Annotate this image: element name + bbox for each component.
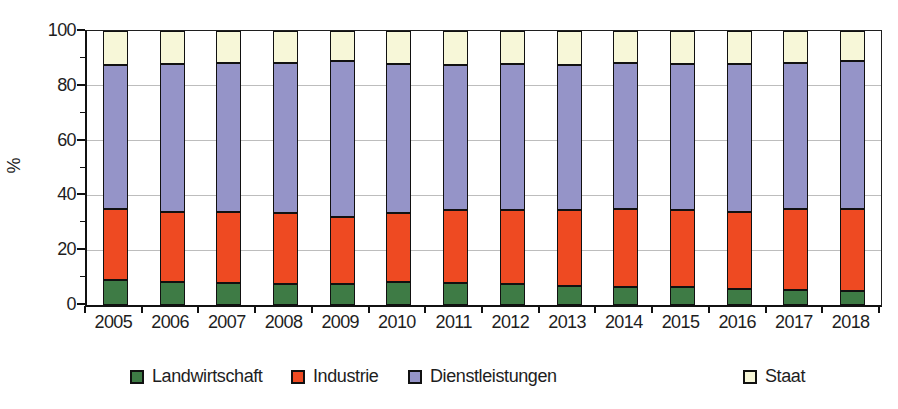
bar-2015-segment-industrie [670,210,695,287]
bar-2012-segment-landwirtschaft [500,284,525,305]
bar-2005-segment-landwirtschaft [103,280,128,305]
x-tick-label-2017: 2017 [775,312,813,333]
bar-2009-segment-industrie [330,217,355,284]
legend-swatch-industrie [291,370,305,384]
x-tick-boundary-0 [84,306,86,313]
y-tick-80 [77,84,85,86]
bar-2014-segment-dienstleistungen [613,63,638,210]
bar-2008-segment-landwirtschaft [273,284,298,305]
x-tick-label-2016: 2016 [718,312,756,333]
y-axis-title: % [4,157,25,173]
x-tick-label-2007: 2007 [208,312,246,333]
bar-2009-segment-landwirtschaft [330,284,355,305]
x-tick-boundary-12 [765,306,767,313]
x-tick-label-2009: 2009 [321,312,359,333]
bar-2016-segment-landwirtschaft [727,289,752,305]
y-tick-60 [77,139,85,141]
bar-2014-segment-landwirtschaft [613,287,638,305]
x-tick-label-2005: 2005 [95,312,133,333]
bar-2011-segment-staat [443,31,468,65]
x-tick-boundary-5 [368,306,370,313]
x-tick-label-2006: 2006 [151,312,189,333]
y-minor-tick-50 [80,167,85,168]
bar-2014-segment-staat [613,31,638,63]
bar-2010-segment-industrie [386,213,411,282]
x-tick-label-2010: 2010 [378,312,416,333]
bar-2006-segment-industrie [160,212,185,282]
legend-swatch-staat [743,370,757,384]
y-tick-label-80: 80 [34,75,76,96]
bar-2007-segment-industrie [216,212,241,283]
bar-2017-segment-industrie [783,209,808,290]
bar-2007-segment-dienstleistungen [216,63,241,212]
x-tick-label-2013: 2013 [548,312,586,333]
x-tick-boundary-4 [311,306,313,313]
bar-2016-segment-dienstleistungen [727,64,752,212]
gridline-60 [87,140,881,141]
bar-2006-segment-staat [160,31,185,64]
y-minor-tick-10 [80,276,85,277]
y-tick-100 [77,29,85,31]
bar-2016-segment-industrie [727,212,752,289]
bar-2018-segment-landwirtschaft [840,291,865,305]
bar-2011-segment-dienstleistungen [443,65,468,210]
stacked-bar-chart-figure: % LandwirtschaftIndustrieDienstleistunge… [0,0,898,409]
x-tick-boundary-11 [708,306,710,313]
bar-2017-segment-staat [783,31,808,63]
x-tick-label-2014: 2014 [605,312,643,333]
legend-label-industrie: Industrie [313,366,378,387]
bar-2005-segment-staat [103,31,128,65]
x-tick-boundary-2 [197,306,199,313]
x-tick-boundary-7 [481,306,483,313]
bar-2013-segment-landwirtschaft [557,286,582,305]
y-tick-label-20: 20 [34,239,76,260]
legend-swatch-dienstleistungen [408,370,422,384]
x-tick-boundary-14 [878,306,880,313]
bar-2018-segment-staat [840,31,865,61]
y-tick-label-0: 0 [34,294,76,315]
bar-2008-segment-dienstleistungen [273,63,298,214]
y-tick-label-100: 100 [34,20,76,41]
legend-label-dienstleistungen: Dienstleistungen [430,366,557,387]
legend-label-landwirtschaft: Landwirtschaft [152,366,262,387]
plot-area [85,30,882,307]
bar-2005-segment-industrie [103,209,128,280]
bar-2009-segment-staat [330,31,355,61]
bar-2008-segment-staat [273,31,298,63]
gridline-80 [87,85,881,86]
y-tick-40 [77,193,85,195]
x-tick-boundary-8 [538,306,540,313]
bar-2012-segment-dienstleistungen [500,64,525,211]
x-tick-boundary-6 [424,306,426,313]
gridline-20 [87,250,881,251]
x-tick-boundary-9 [594,306,596,313]
x-tick-label-2015: 2015 [662,312,700,333]
legend-swatch-landwirtschaft [130,370,144,384]
bar-2015-segment-dienstleistungen [670,64,695,211]
bar-2016-segment-staat [727,31,752,64]
x-tick-label-2011: 2011 [435,312,471,333]
bar-2018-segment-dienstleistungen [840,61,865,209]
legend-item-dienstleistungen: Dienstleistungen [408,366,557,387]
y-tick-label-60: 60 [34,130,76,151]
x-tick-boundary-10 [651,306,653,313]
bar-2007-segment-landwirtschaft [216,283,241,305]
x-tick-label-2018: 2018 [832,312,870,333]
bar-2013-segment-dienstleistungen [557,65,582,210]
bar-2012-segment-staat [500,31,525,64]
y-minor-tick-30 [80,221,85,222]
y-minor-tick-70 [80,112,85,113]
bar-2006-segment-landwirtschaft [160,282,185,305]
y-tick-0 [77,303,85,305]
legend-label-staat: Staat [765,366,805,387]
bar-2013-segment-industrie [557,210,582,285]
bar-2018-segment-industrie [840,209,865,291]
x-tick-boundary-13 [821,306,823,313]
bar-2010-segment-dienstleistungen [386,64,411,213]
bar-2005-segment-dienstleistungen [103,65,128,209]
bar-2008-segment-industrie [273,213,298,284]
x-tick-label-2008: 2008 [265,312,303,333]
bar-2012-segment-industrie [500,210,525,284]
bar-2014-segment-industrie [613,209,638,287]
bar-2010-segment-landwirtschaft [386,282,411,305]
